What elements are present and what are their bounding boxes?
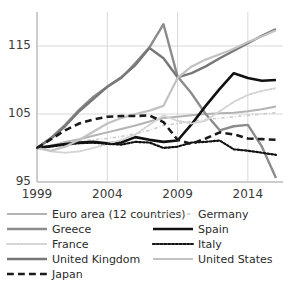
x-tick-label: 2014: [220, 187, 276, 201]
y-tick-label: 95: [0, 174, 31, 188]
x-tick-label: 2004: [79, 187, 135, 201]
x-tick-label: 2009: [150, 187, 206, 201]
legend-swatch-france-icon: [6, 239, 48, 249]
legend-swatch-spain-icon: [152, 224, 194, 234]
axis-lines: [37, 12, 283, 182]
legend-label: United States: [198, 254, 273, 265]
legend-label: France: [52, 239, 89, 250]
legend-item-united-kingdom[interactable]: United Kingdom: [6, 253, 140, 265]
legend-item-germany[interactable]: Germany: [152, 208, 249, 220]
legend-label: United Kingdom: [52, 254, 140, 265]
legend-label: Greece: [52, 224, 91, 235]
legend-item-france[interactable]: France: [6, 238, 89, 250]
legend-label: Japan: [52, 269, 83, 280]
legend-label: Germany: [198, 209, 249, 220]
y-tick-label: 105: [0, 106, 31, 120]
x-tick-label: 1999: [9, 187, 65, 201]
legend-swatch-germany-icon: [152, 209, 194, 219]
legend-swatch-united-states-icon: [152, 254, 194, 264]
legend-swatch-italy-icon: [152, 239, 194, 249]
grid-lines: [37, 12, 283, 182]
legend-item-greece[interactable]: Greece: [6, 223, 91, 235]
legend-swatch-united-kingdom-icon: [6, 254, 48, 264]
legend-swatch-japan-icon: [6, 269, 48, 279]
legend-swatch-greece-icon: [6, 224, 48, 234]
legend-label: Italy: [198, 239, 222, 250]
legend-item-italy[interactable]: Italy: [152, 238, 222, 250]
legend-item-japan[interactable]: Japan: [6, 268, 83, 280]
legend-item-spain[interactable]: Spain: [152, 223, 229, 235]
legend-swatch-euro-area-12-countries-icon: [6, 209, 48, 219]
data-series-layer: [37, 24, 276, 178]
chart-legend: Euro area (12 countries)GermanyGreeceSpa…: [0, 208, 288, 272]
y-tick-label: 115: [0, 38, 31, 52]
legend-item-united-states[interactable]: United States: [152, 253, 273, 265]
legend-label: Spain: [198, 224, 229, 235]
